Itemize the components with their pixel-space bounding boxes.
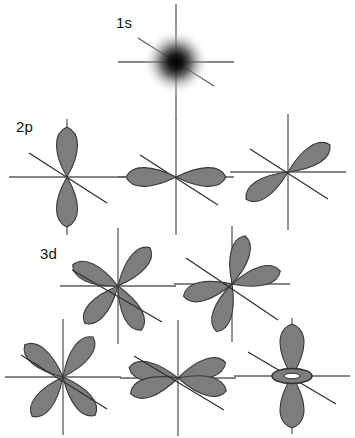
orbital-3d-d xyxy=(118,318,238,438)
orbital-1s xyxy=(116,2,236,122)
torus-3dz2 xyxy=(272,369,312,384)
orbital-3dz2 xyxy=(232,316,352,436)
orbital-3d-c xyxy=(3,317,123,437)
orbital-diagram: 1s 2p 3d xyxy=(0,0,355,438)
electron-cloud-1s xyxy=(142,28,210,96)
orbital-2py xyxy=(228,112,348,232)
orbital-label-3d: 3d xyxy=(40,245,57,262)
orbital-2pz xyxy=(7,117,127,237)
orbital-2px xyxy=(116,117,236,237)
